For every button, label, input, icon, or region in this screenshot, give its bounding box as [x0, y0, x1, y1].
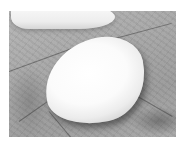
second-pebble [11, 11, 115, 29]
photo [9, 11, 176, 137]
